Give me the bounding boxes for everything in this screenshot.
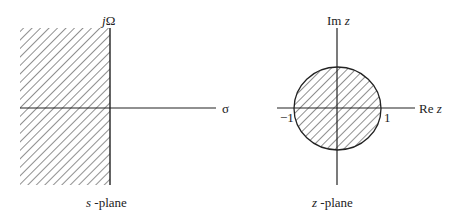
im-z-label: Im z — [327, 14, 350, 27]
s-plane-caption: s -plane — [86, 196, 127, 209]
re-prefix: Re — [419, 101, 437, 116]
im-var: z — [345, 13, 350, 28]
omega-label: Ω — [106, 13, 116, 28]
z-plane-caption: z -plane — [312, 196, 353, 209]
sigma-label: σ — [222, 102, 229, 115]
s-plane-figure — [20, 28, 216, 185]
j-omega-label: jΩ — [102, 14, 115, 27]
left-half-plane-region — [20, 28, 110, 185]
im-prefix: Im — [327, 13, 345, 28]
tick-neg-one: −1 — [280, 111, 294, 124]
z-plane-figure — [277, 28, 415, 185]
re-var: z — [437, 101, 442, 116]
re-z-label: Re z — [419, 102, 442, 115]
s-caption-text: -plane — [91, 195, 127, 210]
tick-pos-one: 1 — [384, 111, 391, 124]
z-caption-text: -plane — [317, 195, 353, 210]
